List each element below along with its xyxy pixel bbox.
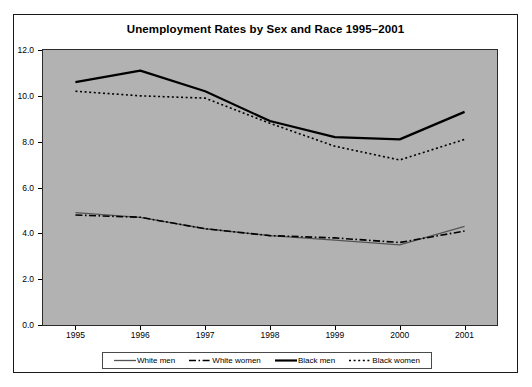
y-axis-tick-label: 10.0 — [8, 91, 34, 101]
y-axis-tick-label: 12.0 — [8, 45, 34, 55]
x-axis-tick-label: 1998 — [248, 330, 292, 340]
line-dotted-icon — [349, 357, 371, 364]
x-axis-tick-label: 2001 — [443, 330, 487, 340]
y-axis-tick-label: 2.0 — [8, 274, 34, 284]
legend-label: White men — [137, 357, 175, 365]
legend-label: Black men — [298, 357, 335, 365]
series-canvas — [43, 50, 497, 325]
line-dashdot-icon — [189, 357, 211, 364]
x-axis-tick-label: 2000 — [378, 330, 422, 340]
legend-item-white-men[interactable]: White men — [114, 357, 175, 365]
series-line-white-women — [75, 215, 464, 243]
x-axis-tick-mark — [335, 326, 336, 330]
chart-frame: Unemployment Rates by Sex and Race 1995–… — [13, 14, 518, 373]
chart-legend: White menWhite womenBlack menBlack women — [102, 352, 432, 369]
x-axis-tick-label: 1996 — [118, 330, 162, 340]
line-solid-icon — [114, 357, 136, 364]
plot-area — [42, 49, 498, 326]
legend-item-white-women[interactable]: White women — [189, 357, 260, 365]
x-axis-tick-label: 1999 — [313, 330, 357, 340]
legend-item-black-men[interactable]: Black men — [275, 357, 335, 365]
x-axis-tick-mark — [270, 326, 271, 330]
y-axis-tick-label: 6.0 — [8, 183, 34, 193]
series-line-black-women — [75, 91, 464, 160]
line-solid-thick-icon — [275, 357, 297, 364]
x-axis-tick-mark — [400, 326, 401, 330]
chart-title: Unemployment Rates by Sex and Race 1995–… — [14, 23, 517, 35]
x-axis-tick-label: 1997 — [183, 330, 227, 340]
legend-item-black-women[interactable]: Black women — [349, 357, 420, 365]
y-axis-tick-label: 8.0 — [8, 137, 34, 147]
y-axis-tick-label: 0.0 — [8, 320, 34, 330]
series-line-black-men — [75, 71, 464, 140]
legend-label: White women — [212, 357, 260, 365]
x-axis-tick-mark — [465, 326, 466, 330]
legend-label: Black women — [372, 357, 420, 365]
y-axis-tick-label: 4.0 — [8, 228, 34, 238]
x-axis-tick-mark — [140, 326, 141, 330]
x-axis-tick-mark — [75, 326, 76, 330]
x-axis-tick-mark — [205, 326, 206, 330]
x-axis-tick-label: 1995 — [53, 330, 97, 340]
